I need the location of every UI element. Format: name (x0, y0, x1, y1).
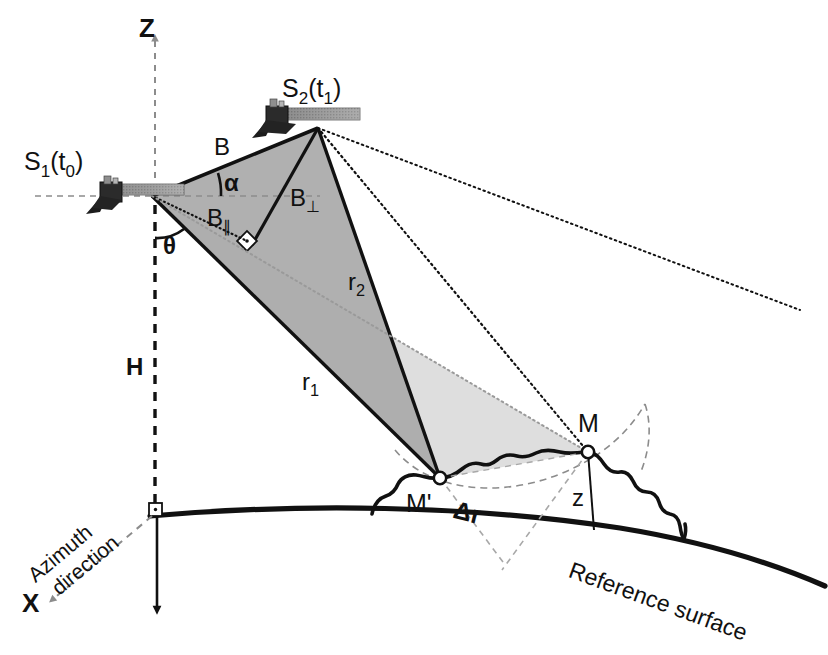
b-perp-main: B (290, 184, 306, 211)
insar-geometry-svg: Z X H Azimuth direction S1(t0) S2(t1) B … (0, 0, 828, 655)
range-r1-label: r1 (302, 368, 319, 399)
s1-label-arg-open: (t (50, 147, 65, 175)
alpha-angle-label: α (224, 169, 239, 196)
theta-angle-label: θ (163, 232, 176, 259)
s2-label-main: S (282, 74, 299, 102)
r1-sub: 1 (310, 381, 319, 399)
reference-surface-label: Reference surface (565, 557, 750, 646)
b-para-main: B (207, 204, 223, 231)
s1-label-arg-close: ) (75, 147, 83, 175)
height-z-label: z (572, 484, 584, 511)
beam-wedge-dark (152, 128, 440, 478)
z-axis-label: Z (139, 13, 155, 43)
reference-surface-curve (150, 508, 825, 586)
height-z-line (588, 452, 594, 530)
x-axis-label: X (22, 588, 40, 618)
s2-label-sub: 2 (299, 89, 308, 108)
height-label-h: H (126, 353, 143, 380)
r2-sub: 2 (356, 281, 365, 299)
b-para-sub: ∥ (223, 217, 231, 236)
point-m-prime-marker (434, 472, 446, 484)
point-m-prime-label: M' (406, 489, 432, 517)
r1-main: r (302, 368, 310, 395)
satellite-2-label: S2(t1) (282, 74, 341, 108)
svg-text:r1: r1 (302, 368, 319, 399)
svg-text:Reference surface: Reference surface (565, 557, 750, 646)
svg-text:S1(t0): S1(t0) (24, 147, 83, 181)
point-m-label: M (578, 409, 599, 437)
s2-label-arg-open: (t (308, 74, 323, 102)
r2-main: r (348, 268, 356, 295)
s1-label-sub: 1 (41, 162, 50, 181)
diagram-canvas: Z X H Azimuth direction S1(t0) S2(t1) B … (0, 0, 828, 655)
s1-label-arg-sub: 0 (65, 162, 74, 181)
svg-text:S2(t1): S2(t1) (282, 74, 341, 108)
svg-text:Δr: Δr (451, 495, 485, 529)
s1-label-main: S (24, 147, 41, 175)
point-m-marker (582, 446, 594, 458)
satellite-1-label: S1(t0) (24, 147, 83, 181)
delta-r-label: Δr (451, 495, 485, 529)
b-perp-sub: ⊥ (306, 197, 320, 215)
baseline-b-label: B (214, 133, 230, 160)
s2-label-arg-sub: 1 (323, 89, 332, 108)
height-axis-h (149, 205, 162, 610)
s2-label-arg-close: ) (333, 74, 341, 102)
